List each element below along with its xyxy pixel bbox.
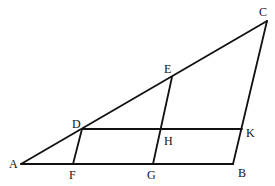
point-label-a: A	[9, 157, 18, 171]
geometry-diagram: ABCDEFGHK	[0, 0, 275, 186]
segment-cb	[233, 21, 267, 164]
point-label-g: G	[147, 168, 156, 182]
point-label-f: F	[69, 168, 76, 182]
labels-group: ABCDEFGHK	[9, 5, 267, 182]
segments-group	[21, 21, 267, 164]
point-label-k: K	[246, 126, 255, 140]
point-label-e: E	[164, 62, 171, 76]
point-label-c: C	[259, 5, 267, 19]
segment-df	[73, 129, 82, 164]
point-label-d: D	[72, 117, 81, 131]
segment-eg	[153, 77, 172, 164]
segment-ac	[21, 21, 267, 164]
point-label-h: H	[164, 134, 173, 148]
point-label-b: B	[238, 166, 246, 180]
